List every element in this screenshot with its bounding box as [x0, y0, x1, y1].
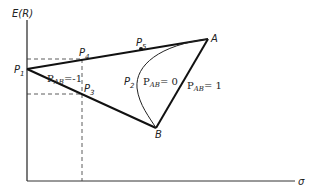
efficient-frontier-diagram: E(R) σ P1 P4 P3 P5 P2 A B PAB=-1 PAB= 0 …	[0, 0, 317, 195]
p1-label: P1	[14, 64, 25, 78]
p4-label: P4	[79, 47, 90, 61]
rho-zero-label: PAB= 0	[143, 76, 178, 89]
line-p1-a	[27, 39, 208, 69]
rho-neg-one-label: PAB=-1	[47, 73, 82, 86]
point-b-label: B	[155, 129, 162, 140]
x-axis-label: σ	[298, 176, 305, 187]
p2-label: P2	[124, 76, 135, 90]
y-axis-label: E(R)	[12, 8, 33, 19]
point-a-label: A	[210, 33, 218, 44]
p5-label: P5	[136, 37, 147, 51]
rho-one-label: PAB= 1	[187, 80, 222, 93]
